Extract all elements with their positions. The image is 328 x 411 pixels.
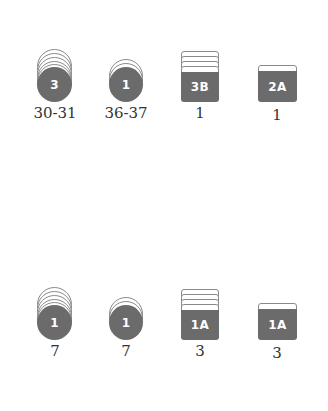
badge-text: 3 [37, 67, 72, 102]
badge-text: 1A [258, 309, 297, 340]
badge-text: 1A [181, 310, 219, 340]
count-label: 7 [15, 344, 95, 359]
card-stack-tall-icon: 3B [181, 51, 219, 102]
count-label: 30-31 [15, 106, 95, 121]
count-label: 7 [86, 344, 166, 359]
coin-stack-tall-icon: 1 [37, 287, 73, 341]
coin-stack-short-icon: 1 [109, 59, 145, 103]
card-stack-short-icon: 2A [258, 65, 297, 102]
count-label: 1 [237, 108, 317, 123]
badge-text: 3B [181, 72, 219, 102]
count-label: 36-37 [86, 106, 166, 121]
badge-text: 1 [109, 67, 143, 102]
card-stack-tall-icon: 1A [181, 289, 219, 340]
coin-stack-tall-icon: 3 [37, 49, 73, 103]
card-stack-short-icon: 1A [258, 303, 297, 340]
count-label: 3 [160, 344, 240, 359]
badge-text: 1 [37, 305, 72, 340]
count-label: 3 [237, 346, 317, 361]
badge-text: 1 [109, 305, 143, 340]
coin-stack-short-icon: 1 [109, 297, 145, 341]
badge-text: 2A [258, 71, 297, 102]
count-label: 1 [160, 106, 240, 121]
